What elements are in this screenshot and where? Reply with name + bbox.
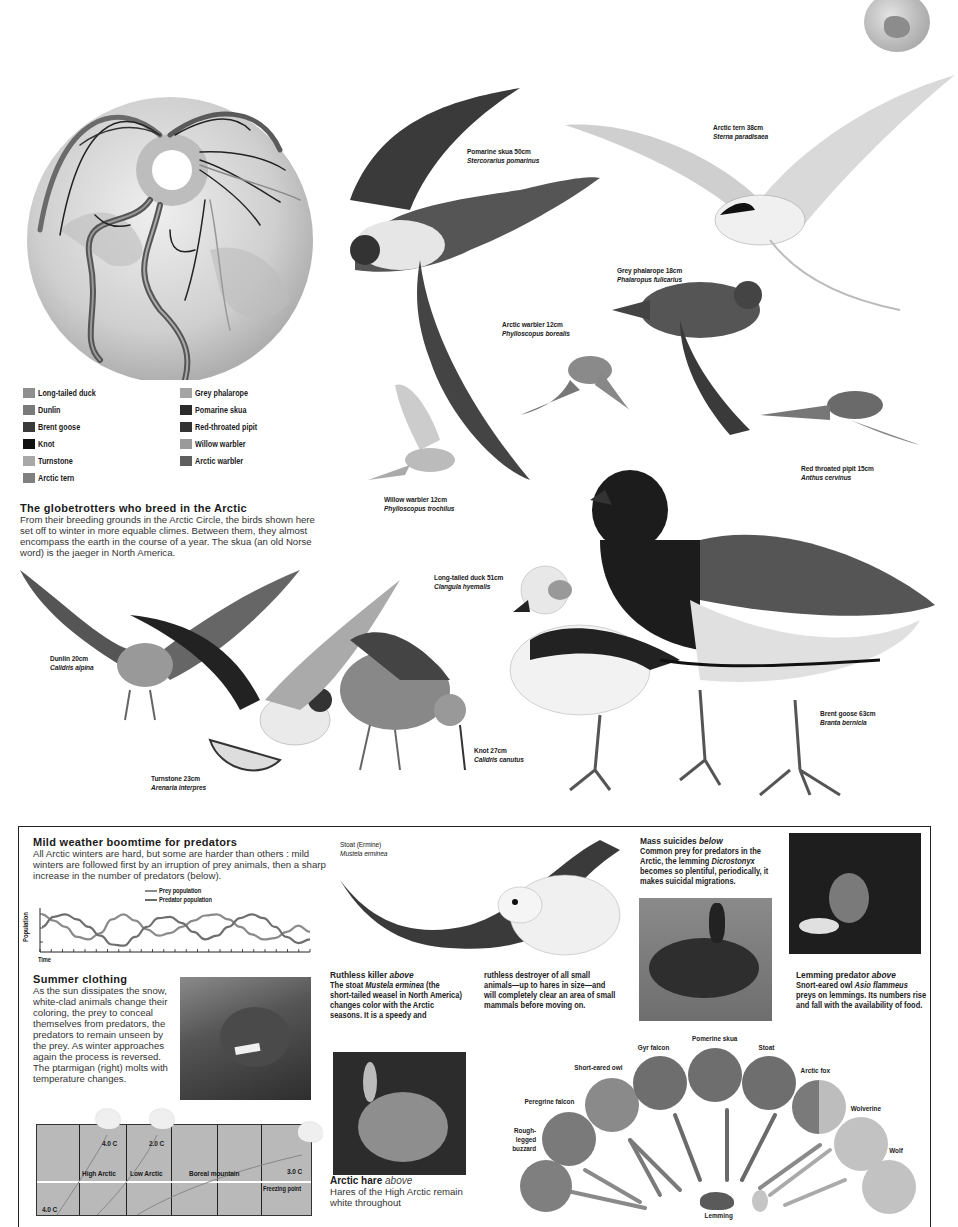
- willow-warbler-illustration: [368, 384, 455, 480]
- ruthless-killer-text-col2: ruthless destroyer of all small animals—…: [484, 970, 616, 1010]
- bird-caption-long-tailed-duck: Long-tailed duck 51cmClangula hyemalis: [434, 573, 503, 591]
- chart-x-label: Time: [38, 956, 51, 963]
- temp-label: 2.0 C: [149, 1139, 164, 1148]
- brent-goose-illustration: [590, 470, 935, 795]
- bird-caption-knot: Knot 27cmCalidris canutus: [474, 746, 524, 764]
- predators-body: All Arctic winters are hard, but some ar…: [33, 848, 328, 881]
- predator-rough-legged-buzzard: [520, 1160, 572, 1212]
- arctic-hare-photo: [333, 1052, 466, 1175]
- hare-icon: [752, 1190, 768, 1212]
- temp-label: 4.0 C: [102, 1139, 117, 1148]
- grey-phalarope-illustration: [612, 281, 762, 435]
- red-throated-pipit-illustration: [760, 391, 920, 445]
- ptarmigan-icon: [298, 1122, 322, 1142]
- lemming-photo: [639, 898, 772, 1021]
- ruthless-killer-text: Ruthless killer above The stoat Mustela …: [330, 970, 462, 1020]
- predator-pomerine-skua: [688, 1048, 742, 1102]
- temperature-chart: 4.0 C 2.0 C 3.0 C 4.0 C High Arctic Low …: [36, 1124, 312, 1216]
- bird-illustrations: [0, 0, 958, 810]
- temp-label: 3.0 C: [287, 1167, 302, 1176]
- stoat-illustration: [330, 830, 630, 970]
- temp-label: 4.0 C: [42, 1205, 57, 1214]
- lemming-predator-text: Lemming predator above Snort-eared owl A…: [796, 970, 928, 1010]
- predator-stoat: [742, 1056, 796, 1110]
- bird-caption-willow-warbler: Willow warbler 12cmPhylloscopus trochilu…: [384, 495, 454, 513]
- chart-legend: Prey population Predator population: [145, 886, 224, 904]
- zone-label-boreal-mountain: Boreal mountain: [189, 1169, 240, 1178]
- population-chart: Prey population Predator population Popu…: [28, 884, 313, 964]
- predator-short-eared-owl: [585, 1078, 639, 1132]
- zone-label-low-arctic: Low Arctic: [130, 1169, 162, 1178]
- arctic-hare-text: Arctic hare above Hares of the High Arct…: [330, 1175, 470, 1208]
- arctic-warbler-illustration: [520, 356, 630, 415]
- bird-caption-arctic-warbler: Arctic warbler 12cmPhylloscopus borealis: [502, 320, 570, 338]
- chart-y-label: Population: [22, 912, 29, 942]
- bird-caption-arctic-tern: Arctic tern 38cmSterna paradisaea: [713, 123, 768, 141]
- knot-illustration: [340, 632, 466, 770]
- summer-clothing-title: Summer clothing: [33, 973, 178, 985]
- mass-suicides-text: Mass suicides below Common prey for pred…: [640, 836, 772, 886]
- bird-caption-brent-goose: Brent goose 63cmBranta bernicla: [820, 709, 876, 727]
- bird-caption-pomarine-skua: Pomarine skua 50cmStercorarius pomarinus: [467, 147, 539, 165]
- predator-gyr-falcon: [633, 1056, 687, 1110]
- predator-peregrine-falcon: [542, 1112, 596, 1166]
- predators-intro: Mild weather boomtime for predators All …: [33, 836, 328, 881]
- predator-wolf: [862, 1160, 916, 1214]
- bird-caption-turnstone: Turnstone 23cmArenaria interpres: [151, 774, 206, 792]
- freezing-point-label: Freezing point: [263, 1185, 301, 1192]
- zone-label-high-arctic: High Arctic: [82, 1169, 116, 1178]
- predators-title: Mild weather boomtime for predators: [33, 836, 328, 848]
- summer-clothing-body: As the sun dissipates the snow, white-cl…: [33, 985, 178, 1084]
- bird-caption-dunlin: Dunlin 20cmCalidris alpina: [50, 654, 94, 672]
- bird-caption-grey-phalarope: Grey phalarope 18cmPhalaropus fulicarius: [617, 266, 682, 284]
- summer-clothing-section: Summer clothing As the sun dissipates th…: [33, 973, 178, 1084]
- lemming-icon: [700, 1192, 734, 1210]
- owl-photo: [789, 833, 921, 954]
- food-web-diagram: Rough-legged buzzard Peregrine falcon Sh…: [490, 1040, 930, 1210]
- ptarmigan-icon: [150, 1109, 174, 1129]
- predator-arctic-fox: [792, 1080, 846, 1134]
- ptarmigan-icon: [96, 1109, 120, 1129]
- chart-plot: [38, 904, 313, 959]
- bird-caption-red-throated-pipit: Red throated pipit 15cmAnthus cervinus: [801, 464, 874, 482]
- ptarmigan-photo: [180, 977, 311, 1100]
